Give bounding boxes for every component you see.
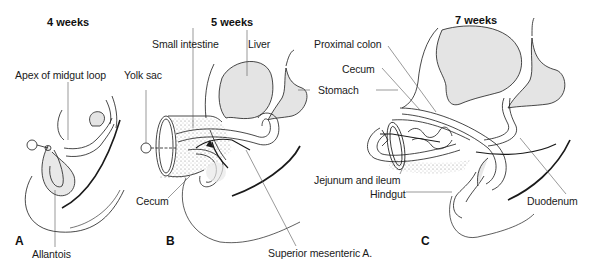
panel-b-title: 5 weeks	[211, 17, 253, 28]
diagram-drawing	[0, 0, 592, 271]
label-cecum-b: Cecum	[136, 196, 169, 207]
label-apex-of-midgut-loop: Apex of midgut loop	[15, 70, 106, 81]
label-small-intestine: Small intestine	[152, 39, 219, 50]
midgut-rotation-figure: 4 weeks 5 weeks 7 weeks Apex of midgut l…	[0, 0, 592, 271]
panel-letter-b: B	[166, 235, 175, 247]
panel-a-drawing	[25, 82, 124, 247]
label-liver: Liver	[248, 39, 270, 50]
panel-c-title: 7 weeks	[455, 15, 497, 26]
label-proximal-colon: Proximal colon	[314, 39, 381, 50]
label-stomach: Stomach	[318, 85, 359, 96]
label-allantois: Allantois	[32, 249, 71, 260]
label-superior-mesenteric-artery: Superior mesenteric A.	[268, 248, 372, 259]
panel-b-drawing	[141, 28, 310, 246]
panel-a-title: 4 weeks	[47, 17, 89, 28]
label-duodenum: Duodenum	[527, 196, 578, 207]
label-hindgut: Hindgut	[370, 189, 406, 200]
panel-letter-c: C	[421, 235, 430, 247]
label-yolk-sac: Yolk sac	[124, 70, 162, 81]
label-cecum-c: Cecum	[342, 64, 375, 75]
label-jejunum-and-ileum: Jejunum and ileum	[314, 175, 400, 186]
panel-letter-a: A	[15, 235, 24, 247]
